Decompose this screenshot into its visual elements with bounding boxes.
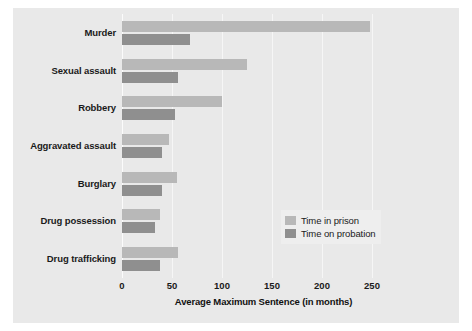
x-tick-label: 100 [214, 280, 230, 291]
bar-group [122, 52, 405, 90]
bar-prison [122, 21, 370, 32]
legend-label-probation: Time on probation [301, 228, 376, 239]
bar-group [122, 127, 405, 165]
bar-probation [122, 260, 160, 271]
legend-swatch-probation [285, 229, 296, 238]
category-label: Robbery [16, 102, 116, 113]
x-tick-label: 50 [167, 280, 178, 291]
x-axis-ticks: 050100150200250 [122, 280, 405, 294]
bar-probation [122, 109, 175, 120]
category-label: Aggravated assault [16, 140, 116, 151]
category-label: Murder [16, 27, 116, 38]
x-axis-title: Average Maximum Sentence (in months) [122, 296, 405, 307]
bar-group [122, 14, 405, 52]
bar-group [122, 89, 405, 127]
bar-prison [122, 59, 247, 70]
bar-probation [122, 222, 155, 233]
x-tick-label: 0 [119, 280, 124, 291]
bar-prison [122, 209, 160, 220]
bar-prison [122, 96, 222, 107]
x-tick-label: 150 [264, 280, 280, 291]
legend-swatch-prison [285, 216, 296, 225]
category-label: Sexual assault [16, 65, 116, 76]
legend-label-prison: Time in prison [301, 215, 359, 226]
chart-legend: Time in prison Time on probation [281, 210, 381, 244]
legend-item: Time on probation [285, 227, 376, 240]
bar-prison [122, 134, 169, 145]
bar-group [122, 165, 405, 203]
bar-prison [122, 247, 178, 258]
bar-group [122, 240, 405, 278]
chart-figure: MurderSexual assaultRobberyAggravated as… [0, 0, 472, 331]
category-label: Burglary [16, 178, 116, 189]
legend-item: Time in prison [285, 214, 376, 227]
bar-probation [122, 185, 162, 196]
x-tick-label: 250 [364, 280, 380, 291]
x-tick-label: 200 [314, 280, 330, 291]
category-label: Drug trafficking [16, 253, 116, 264]
bar-probation [122, 34, 190, 45]
bar-prison [122, 172, 177, 183]
category-label: Drug possession [16, 215, 116, 226]
bar-probation [122, 147, 162, 158]
category-axis-labels: MurderSexual assaultRobberyAggravated as… [14, 14, 116, 278]
bar-probation [122, 72, 178, 83]
